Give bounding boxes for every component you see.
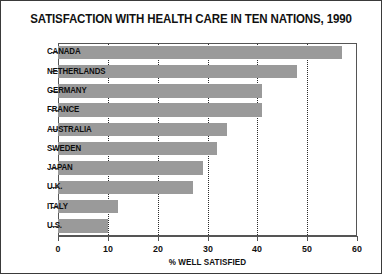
category-label-row: FRANCE	[1, 101, 382, 120]
x-tick-10	[108, 236, 109, 241]
x-tick-label-40: 40	[239, 243, 276, 254]
category-label-row: U.K.	[1, 178, 382, 197]
category-labels-layer: CANADANETHERLANDSGERMANYFRANCEAUSTRALIAS…	[1, 43, 382, 236]
x-tick-20	[158, 236, 159, 241]
category-label-italy: ITALY	[47, 200, 68, 214]
x-tick-30	[208, 236, 209, 241]
category-label-netherlands: NETHERLANDS	[47, 65, 105, 79]
category-label-row: ITALY	[1, 197, 382, 216]
x-tick-label-30: 30	[189, 243, 226, 254]
category-label-row: AUSTRALIA	[1, 120, 382, 139]
x-tick-0	[58, 236, 59, 241]
category-label-row: GERMANY	[1, 82, 382, 101]
category-label-row: U.S.	[1, 217, 382, 236]
category-label-u-s: U.S.	[47, 219, 62, 233]
x-tick-40	[257, 236, 258, 241]
category-label-row: CANADA	[1, 43, 382, 62]
x-tick-50	[307, 236, 308, 241]
category-label-canada: CANADA	[47, 45, 81, 59]
x-tick-label-20: 20	[139, 243, 176, 254]
category-label-row: JAPAN	[1, 159, 382, 178]
x-tick-label-0: 0	[40, 243, 77, 254]
category-label-row: NETHERLANDS	[1, 62, 382, 81]
category-label-japan: JAPAN	[47, 161, 73, 175]
x-tick-label-50: 50	[289, 243, 326, 254]
x-tick-label-60: 60	[339, 243, 376, 254]
category-label-germany: GERMANY	[47, 84, 87, 98]
x-tick-label-10: 10	[89, 243, 126, 254]
category-label-u-k: U.K.	[47, 180, 62, 194]
chart-title: SATISFACTION WITH HEALTH CARE IN TEN NAT…	[14, 12, 367, 26]
x-axis-title: % WELL SATISFIED	[67, 257, 348, 267]
chart-figure: SATISFACTION WITH HEALTH CARE IN TEN NAT…	[0, 0, 382, 274]
x-tick-60	[357, 236, 358, 241]
category-label-australia: AUSTRALIA	[47, 123, 92, 137]
category-label-sweden: SWEDEN	[47, 142, 81, 156]
category-label-france: FRANCE	[47, 103, 79, 117]
category-label-row: SWEDEN	[1, 140, 382, 159]
